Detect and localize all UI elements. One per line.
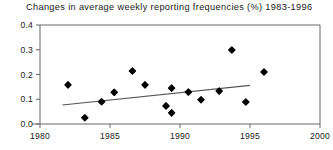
y-axis-tick-label: 0.1 bbox=[20, 94, 33, 104]
plot-frame bbox=[40, 25, 320, 124]
data-point bbox=[185, 89, 191, 95]
data-point bbox=[65, 82, 71, 88]
data-point bbox=[169, 110, 175, 116]
x-axis-tick-label: 1995 bbox=[240, 131, 260, 141]
data-point bbox=[229, 47, 235, 53]
data-point bbox=[99, 99, 105, 105]
data-point bbox=[261, 69, 267, 75]
trend-line bbox=[62, 85, 250, 105]
data-point bbox=[163, 103, 169, 109]
chart-figure: Changes in average weekly reporting freq… bbox=[0, 0, 333, 150]
data-point bbox=[142, 82, 148, 88]
y-axis-tick-label: 0.4 bbox=[20, 20, 33, 30]
data-point bbox=[82, 115, 88, 121]
x-axis-tick-label: 2000 bbox=[310, 131, 330, 141]
data-point bbox=[129, 68, 135, 74]
y-axis-tick-label: 0.2 bbox=[20, 70, 33, 80]
x-axis-tick-label: 1985 bbox=[100, 131, 120, 141]
data-point bbox=[198, 97, 204, 103]
scatter-plot: 0.00.10.20.30.419801985199019952000 bbox=[0, 0, 333, 150]
data-point bbox=[111, 89, 117, 95]
data-point bbox=[169, 85, 175, 91]
data-point bbox=[243, 99, 249, 105]
y-axis-tick-label: 0.3 bbox=[20, 45, 33, 55]
x-axis-tick-label: 1990 bbox=[170, 131, 190, 141]
x-axis-tick-label: 1980 bbox=[30, 131, 50, 141]
y-axis-tick-label: 0.0 bbox=[20, 119, 33, 129]
